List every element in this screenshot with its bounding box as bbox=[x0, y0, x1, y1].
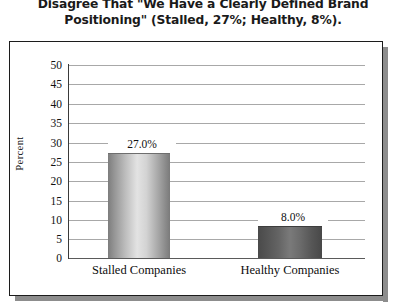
chart-title-line-2: Positioning" (Stalled, 27%; Healthy, 8%)… bbox=[0, 12, 406, 28]
chart-screenshot: Disagree That "We Have a Clearly Defined… bbox=[0, 0, 406, 306]
figure-frame bbox=[9, 41, 383, 296]
chart-title-line-1: Disagree That "We Have a Clearly Defined… bbox=[0, 0, 406, 12]
chart-title: Disagree That "We Have a Clearly Defined… bbox=[0, 0, 406, 28]
figure-frame-shadow-bottom bbox=[15, 296, 388, 301]
figure-frame-shadow-right bbox=[383, 47, 388, 302]
